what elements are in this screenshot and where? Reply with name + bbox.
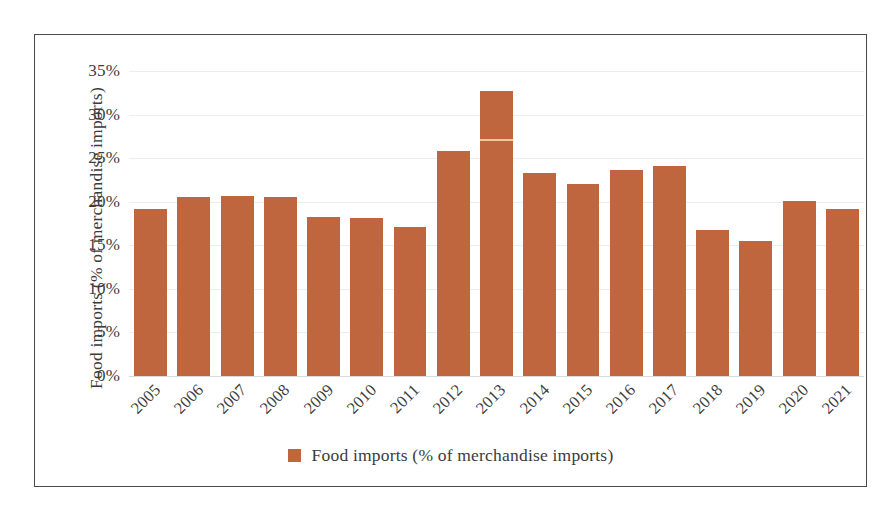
bar-2010[interactable] [350,218,383,376]
legend-swatch-icon [288,449,301,462]
bar-slot [388,71,431,376]
x-axis-tick-label-2010: 2010 [343,380,381,418]
x-axis-tick-label-2016: 2016 [602,380,640,418]
bar-2006[interactable] [177,197,210,376]
bar-2005[interactable] [134,209,167,376]
x-axis-tick-label-2011: 2011 [386,380,424,418]
bar-series [129,71,864,376]
x-axis-tick-label-2017: 2017 [645,380,683,418]
x-axis-labels: 2005200620072008200920102011201220132014… [129,376,864,436]
y-axis-tick-label: 30% [88,105,120,125]
y-axis-tick-label: 15% [88,235,120,255]
y-axis-tick-label: 10% [88,279,120,299]
x-axis-tick-label-2008: 2008 [256,380,294,418]
bar-slot [259,71,302,376]
bar-slot [345,71,388,376]
bar-2008[interactable] [264,197,297,376]
bar-slot [691,71,734,376]
x-axis-tick-label-2020: 2020 [775,380,813,418]
bar-slot [605,71,648,376]
bar-2013[interactable] [480,91,513,376]
bar-2021[interactable] [826,209,859,376]
bar-2020[interactable] [783,201,816,376]
bar-slot [302,71,345,376]
y-axis-tick-label: 0% [97,366,120,386]
bar-slot [778,71,821,376]
bar-slot [172,71,215,376]
bar-slot [518,71,561,376]
bar-slot [475,71,518,376]
x-axis-tick-label-2014: 2014 [516,380,554,418]
bar-2018[interactable] [696,230,729,376]
chart-frame: Food imports (% of merchandise imports) … [34,34,867,487]
bar-slot [129,71,172,376]
x-axis-tick-label-2006: 2006 [170,380,208,418]
x-axis-tick-label-2005: 2005 [126,380,164,418]
bar-slot [561,71,604,376]
y-axis-tick-label: 35% [88,61,120,81]
bar-2016[interactable] [610,170,643,376]
x-axis-tick-label-2021: 2021 [818,380,856,418]
bar-slot [432,71,475,376]
bar-2007[interactable] [221,196,254,376]
plot-area: 0%5%10%15%20%25%30%35% [129,71,864,376]
x-axis-tick-label-2015: 2015 [559,380,597,418]
bar-2017[interactable] [653,166,686,376]
bar-slot [821,71,864,376]
y-axis-tick-label: 25% [88,148,120,168]
bar-2019[interactable] [739,241,772,376]
y-axis-tick-label: 5% [97,322,120,342]
x-axis-tick-label-2018: 2018 [688,380,726,418]
legend-label: Food imports (% of merchandise imports) [312,445,614,466]
bar-slot [734,71,777,376]
x-axis-tick-label-2009: 2009 [299,380,337,418]
bar-2009[interactable] [307,217,340,376]
bar-2014[interactable] [523,173,556,376]
bar-2015[interactable] [567,184,600,376]
y-axis-tick-label: 20% [88,192,120,212]
chart-legend: Food imports (% of merchandise imports) [35,445,866,466]
bar-2012[interactable] [437,151,470,376]
x-axis-tick-label-2012: 2012 [429,380,467,418]
bar-2011[interactable] [394,227,427,376]
x-axis-tick-label-2019: 2019 [732,380,770,418]
bar-slot [215,71,258,376]
x-axis-tick-label-2013: 2013 [472,380,510,418]
bar-slot [648,71,691,376]
x-axis-tick-label-2007: 2007 [213,380,251,418]
